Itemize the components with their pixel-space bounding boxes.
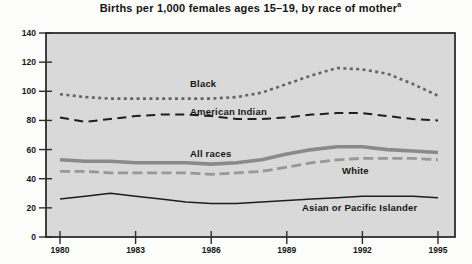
y-tick-label: 100 xyxy=(22,86,36,96)
x-tick-label: 1986 xyxy=(202,245,221,255)
y-tick-label: 20 xyxy=(27,203,37,213)
x-tick-label: 1983 xyxy=(126,245,145,255)
y-tick-label: 80 xyxy=(27,115,37,125)
series-label-asian-or-pacific-islander: Asian or Pacific Islander xyxy=(302,202,417,213)
y-tick-label: 40 xyxy=(27,174,37,184)
chart: Births per 1,000 females ages 15–19, by … xyxy=(0,0,472,264)
x-tick-label: 1989 xyxy=(277,245,296,255)
x-tick-label: 1995 xyxy=(429,245,448,255)
y-tick-label: 60 xyxy=(27,145,37,155)
series-label-black: Black xyxy=(190,78,217,89)
series-label-all-races: All races xyxy=(190,148,231,159)
y-tick-label: 140 xyxy=(22,28,36,38)
series-label-white: White xyxy=(342,165,369,176)
x-tick-label: 1980 xyxy=(51,245,70,255)
x-tick-label: 1992 xyxy=(353,245,372,255)
chart-canvas: 0204060801001201401980198319861989199219… xyxy=(0,0,472,264)
y-tick-label: 120 xyxy=(22,57,36,67)
y-tick-label: 0 xyxy=(31,232,36,242)
series-label-american-indian: American Indian xyxy=(190,106,267,117)
